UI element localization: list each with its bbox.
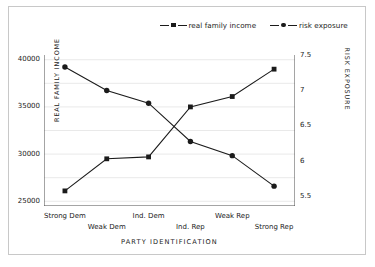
y-axis-right-title: RISK EXPOSURE: [343, 9, 351, 149]
data-point-real-family-income-3[interactable]: [188, 105, 193, 110]
data-point-real-family-income-1[interactable]: [104, 156, 109, 161]
legend-line-icon: [270, 25, 279, 26]
x-axis-title: PARTY IDENTIFICATION: [44, 238, 295, 246]
y-tick-label-right: 5.5: [300, 192, 311, 200]
legend-line-icon: [178, 25, 187, 26]
y-axis-left-ticks: 25000300003500040000: [14, 0, 40, 267]
y-tick-label-left: 35000: [18, 102, 40, 110]
chart-figure: real family income risk exposure 2500030…: [0, 0, 375, 267]
legend-line-icon: [288, 25, 297, 26]
data-point-risk-exposure-1[interactable]: [104, 88, 109, 93]
data-point-risk-exposure-0[interactable]: [62, 64, 67, 69]
x-tick-label-strong-dem: Strong Dem: [30, 212, 100, 220]
y-tick-label-right: 6.5: [300, 121, 311, 129]
data-point-risk-exposure-5[interactable]: [271, 183, 276, 188]
y-tick-label-left: 40000: [18, 55, 40, 63]
data-point-risk-exposure-2[interactable]: [146, 101, 151, 106]
data-point-risk-exposure-4[interactable]: [230, 153, 235, 158]
data-point-real-family-income-2[interactable]: [146, 155, 151, 160]
y-axis-left-title: REAL FAMILY INCOME: [53, 10, 61, 150]
x-tick-label-weak-rep: Weak Rep: [197, 212, 267, 220]
y-tick-label-left: 30000: [18, 150, 40, 158]
data-point-real-family-income-4[interactable]: [230, 94, 235, 99]
square-marker-icon: [171, 23, 176, 28]
legend-item-real-family-income[interactable]: real family income: [160, 21, 256, 30]
y-tick-label-right: 7: [300, 86, 304, 94]
y-tick-label-left: 25000: [18, 197, 40, 205]
x-tick-label-strong-rep: Strong Rep: [239, 223, 309, 231]
y-tick-label-right: 6: [300, 157, 304, 165]
plot-area: [44, 55, 295, 206]
y-tick-label-right: 7.5: [300, 51, 311, 59]
circle-marker-icon: [281, 23, 286, 28]
x-tick-label-ind-dem: Ind. Dem: [114, 212, 184, 220]
plot-svg: [44, 55, 295, 206]
series-line-risk-exposure: [65, 67, 274, 186]
x-tick-label-weak-dem: Weak Dem: [72, 223, 142, 231]
legend-label-real-family-income: real family income: [189, 21, 257, 30]
x-tick-label-ind-rep: Ind. Rep: [155, 223, 225, 231]
data-point-real-family-income-0[interactable]: [63, 189, 68, 194]
legend-line-icon: [160, 25, 169, 26]
data-point-real-family-income-5[interactable]: [272, 67, 277, 72]
data-point-risk-exposure-3[interactable]: [188, 139, 193, 144]
